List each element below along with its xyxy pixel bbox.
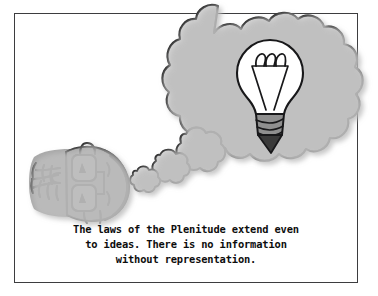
thought-bubble-small	[130, 166, 160, 192]
cartoon-caption: The laws of the Plenitude extend even to…	[22, 222, 350, 268]
character-head-group	[29, 143, 129, 223]
lightbulb-screw-base	[256, 114, 284, 135]
thought-cloud-group	[130, 5, 363, 192]
cartoon-panel: The laws of the Plenitude extend even to…	[0, 0, 378, 296]
